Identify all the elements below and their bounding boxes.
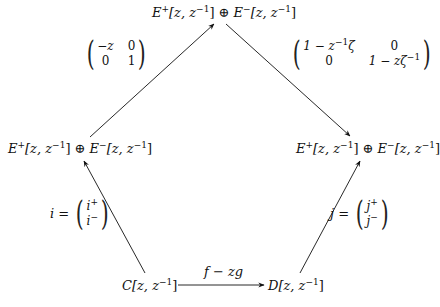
paren-right: )	[380, 196, 388, 230]
direct-sum: ] ⊕	[209, 5, 233, 20]
symbol-e: E	[378, 141, 388, 156]
node-d: D[z, z−1]	[268, 279, 324, 292]
symbol-e: E	[296, 141, 306, 156]
node-c: C[z, z−1]	[122, 279, 177, 292]
sup-minus: −	[387, 140, 395, 150]
sup-plus: +	[306, 140, 314, 150]
paren-right: )	[138, 36, 146, 70]
matrix-cell: 0	[303, 55, 354, 67]
bracket-open: [z, z	[132, 278, 159, 293]
vector-cell: i+	[87, 200, 98, 212]
bracket-open: [z, z	[313, 141, 340, 156]
node-left-direct-sum: E+[z, z−1] ⊕ E−[z, z−1]	[8, 142, 152, 155]
bracket-open: [z, z	[169, 5, 196, 20]
bracket-open: [z, z	[107, 141, 134, 156]
sup-plus: +	[162, 4, 170, 14]
equals: =	[54, 207, 73, 220]
matrix-cell: 0	[97, 55, 113, 67]
paren-right: )	[423, 36, 431, 70]
sup-neg-one: −1	[196, 4, 209, 14]
vector-cell: i−	[87, 215, 98, 227]
label-f-minus-zg: f − zg	[204, 265, 243, 278]
sup-plus: +	[18, 140, 26, 150]
symbol-e: E	[8, 141, 18, 156]
bracket-open: [z, z	[278, 278, 305, 293]
symbol-d: D	[268, 278, 278, 293]
node-top-direct-sum: E+[z, z−1] ⊕ E−[z, z−1]	[152, 6, 296, 19]
paren-right: )	[101, 196, 109, 230]
equals: =	[334, 207, 353, 220]
sup-neg-one: −1	[52, 140, 65, 150]
node-right-direct-sum: E+[z, z−1] ⊕ E−[z, z−1]	[296, 142, 440, 155]
bracket-close: ]	[435, 141, 440, 156]
matrix-cell: 1 − zζ−1	[369, 55, 420, 67]
symbol-e: E	[234, 5, 244, 20]
sup-minus: −	[99, 140, 107, 150]
sup-neg-one: −1	[278, 4, 291, 14]
bracket-close: ]	[147, 141, 152, 156]
vector-cell: j+	[366, 200, 377, 212]
label-i-map: i = ( i+ i− )	[50, 196, 111, 230]
paren-left: (	[293, 36, 301, 70]
bracket-close: ]	[291, 5, 296, 20]
matrix-cell: −z	[97, 40, 113, 52]
symbol-c: C	[122, 278, 132, 293]
matrix-cell: 1 − z−1ζ	[303, 40, 354, 52]
matrix-cell: 0	[369, 40, 420, 52]
paren-left: (	[356, 196, 364, 230]
bracket-open: [z, z	[251, 5, 278, 20]
symbol-e: E	[152, 5, 162, 20]
bracket-close: ]	[172, 278, 177, 293]
symbol-e: E	[90, 141, 100, 156]
label-right-matrix: ( 1 − z−1ζ 0 0 1 − zζ−1 )	[290, 36, 433, 70]
sup-neg-one: −1	[422, 140, 435, 150]
direct-sum: ] ⊕	[353, 141, 377, 156]
bracket-open: [z, z	[25, 141, 52, 156]
vector-cell: j−	[366, 215, 377, 227]
label-left-matrix: ( −z 0 0 1 )	[84, 36, 149, 70]
sup-neg-one: −1	[159, 277, 172, 287]
sup-neg-one: −1	[134, 140, 147, 150]
sup-neg-one: −1	[305, 277, 318, 287]
direct-sum: ] ⊕	[65, 141, 89, 156]
sup-minus: −	[243, 4, 251, 14]
paren-left: (	[76, 196, 84, 230]
matrix-cell: 1	[128, 55, 136, 67]
sup-neg-one: −1	[340, 140, 353, 150]
bracket-open: [z, z	[395, 141, 422, 156]
matrix-cell: 0	[128, 40, 136, 52]
paren-left: (	[87, 36, 95, 70]
label-j-map: j = ( j+ j− )	[330, 196, 391, 230]
bracket-close: ]	[319, 278, 324, 293]
